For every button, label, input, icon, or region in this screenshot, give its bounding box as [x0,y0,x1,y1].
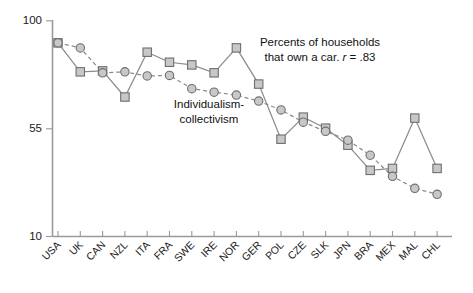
x-tick-label-mex: MEX [373,238,398,263]
x-tick-labels: USAUKCANNZLITAFRASWEIRENORGERPOLCZESLKJP… [39,238,442,264]
data-point-cze-s2 [299,118,307,126]
series-markers [54,39,442,199]
y-tick-label-100: 100 [23,14,42,26]
data-point-usa-s2 [54,39,62,47]
indiv-annotation-line2: collectivism [180,113,239,125]
data-point-swe-s1 [188,61,196,69]
x-tick-label-usa: USA [39,238,63,262]
data-point-swe-s2 [188,84,196,92]
data-point-mex-s2 [388,172,396,180]
data-point-ita-s2 [143,72,151,80]
x-tick-marks [58,231,437,237]
series-line-1 [58,43,437,171]
data-point-nzl-s1 [121,93,129,101]
data-point-mex-s1 [388,164,396,172]
x-tick-label-ger: GER [239,238,264,263]
data-point-ger-s2 [255,97,263,105]
annotation-individualism: Individualism- collectivism [174,98,244,125]
y-axis: 100 55 10 [23,14,53,242]
data-point-chl-s1 [433,164,441,172]
data-point-pol-s2 [277,106,285,114]
x-tick-label-slk: SLK [308,238,331,261]
series-lines [58,43,437,194]
x-tick-label-ire: IRE [198,238,219,259]
x-tick-label-pol: POL [263,238,286,261]
data-point-chl-s2 [433,190,441,198]
annotation-car-ownership: Percents of households that own a car. r… [260,36,380,63]
data-point-ire-s2 [210,88,218,96]
data-point-bra-s1 [366,166,374,174]
x-tick-label-fra: FRA [151,238,174,261]
x-tick-label-mal: MAL [396,238,420,262]
data-point-nzl-s2 [121,68,129,76]
data-point-mal-s2 [411,184,419,192]
data-point-uk-s1 [76,68,84,76]
data-point-fra-s1 [165,58,173,66]
indiv-annotation-line1: Individualism- [174,98,244,110]
y-tick-label-55: 55 [29,122,42,134]
data-point-slk-s2 [321,127,329,135]
data-point-mal-s1 [411,114,419,122]
x-tick-label-swe: SWE [171,238,196,263]
x-tick-label-nor: NOR [216,238,241,263]
y-tick-label-10: 10 [29,230,42,242]
chart-plot-area: 100 55 10 USAUKCANNZLITAFRASWEIRENORGERP… [0,0,473,293]
data-point-bra-s2 [366,151,374,159]
x-tick-label-nzl: NZL [107,238,130,261]
x-tick-label-can: CAN [83,238,107,262]
chart-figure: 100 55 10 USAUKCANNZLITAFRASWEIRENORGERP… [0,0,473,293]
data-point-fra-s2 [165,71,173,79]
x-axis: USAUKCANNZLITAFRASWEIRENORGERPOLCZESLKJP… [39,231,452,264]
x-tick-label-bra: BRA [351,238,375,262]
data-point-jpn-s2 [344,136,352,144]
x-tick-label-ita: ITA [133,238,152,257]
car-annotation-line2: that own a car. r = .83 [265,51,376,63]
x-tick-label-cze: CZE [285,238,308,261]
data-point-ire-s1 [210,69,218,77]
data-point-nor-s1 [232,44,240,52]
x-tick-label-chl: CHL [419,238,442,261]
data-point-can-s2 [98,69,106,77]
data-point-uk-s2 [76,44,84,52]
x-tick-label-jpn: JPN [330,238,353,261]
car-annotation-line1: Percents of households [260,36,380,48]
data-point-ita-s1 [143,48,151,56]
data-point-pol-s1 [277,135,285,143]
data-point-ger-s1 [255,80,263,88]
